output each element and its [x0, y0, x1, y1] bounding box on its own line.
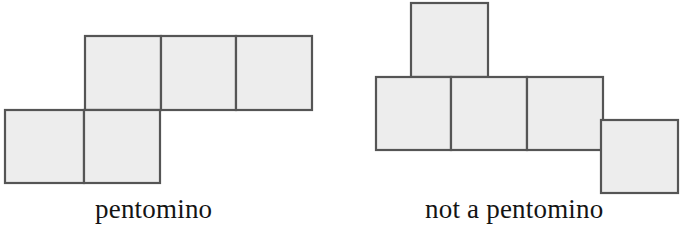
cell-top-cell	[411, 3, 488, 77]
pentomino-comparison-figure: pentomino not a pentomino	[0, 0, 684, 233]
cell-lower-row-cell-1	[5, 110, 84, 183]
panel-not-a-pentomino: not a pentomino	[342, 0, 684, 233]
cell-upper-row-cell-2	[161, 36, 236, 110]
cell-offset-corner-cell	[601, 120, 678, 193]
caption-not-a-pentomino: not a pentomino	[425, 196, 603, 223]
cell-middle-row-cell-1	[376, 77, 451, 150]
pentomino-shape	[0, 0, 342, 190]
cell-upper-row-cell-3	[236, 36, 312, 110]
cell-upper-row-cell-1	[85, 36, 161, 110]
panel-pentomino: pentomino	[0, 0, 342, 233]
cell-middle-row-cell-2	[451, 77, 527, 150]
cell-lower-row-cell-2	[84, 110, 160, 183]
caption-pentomino: pentomino	[95, 196, 212, 223]
cell-middle-row-cell-3	[527, 77, 603, 150]
not-a-pentomino-shape	[342, 0, 684, 200]
